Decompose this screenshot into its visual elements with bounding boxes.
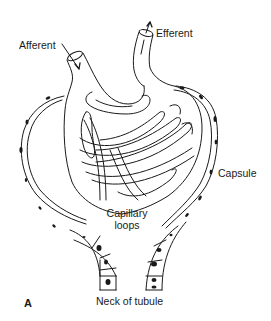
afferent-label: Afferent [19,39,56,51]
capillary-loops [80,92,194,200]
efferent-arteriole [122,22,202,214]
panel-letter: A [24,297,32,309]
tubule-left-wall [70,230,116,290]
capsule-label: Capsule [218,167,257,179]
tubule-right-wall [146,222,186,290]
efferent-label: Efferent [156,27,193,39]
afferent-arteriole [62,44,144,214]
capillary-loops-label-line1: Capillary [100,207,154,219]
capillary-loops-label: Capillary loops [100,207,154,231]
capillary-loops-label-line2: loops [100,219,154,231]
neck-of-tubule-label: Neck of tubule [96,295,163,307]
